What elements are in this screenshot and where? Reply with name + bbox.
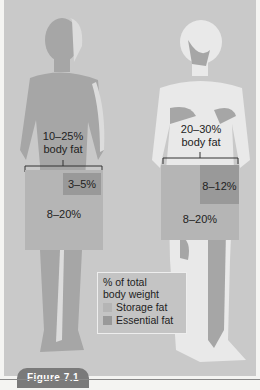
male-total-caption: body fat [30, 143, 96, 156]
essential-swatch-icon [103, 316, 112, 325]
divider [0, 379, 260, 380]
female-total-label: 20–30% body fat [168, 123, 234, 149]
figure-label: Figure 7.1 [17, 368, 89, 388]
legend-title-line2: body weight [103, 288, 181, 300]
legend-item-storage: Storage fat [103, 301, 181, 313]
male-essential-label: 3–5% [63, 178, 101, 191]
legend-label: Essential fat [116, 314, 173, 326]
storage-swatch-icon [103, 303, 112, 312]
male-total-label: 10–25% body fat [30, 130, 96, 156]
male-storage-label: 8–20% [25, 208, 103, 221]
legend-label: Storage fat [116, 301, 167, 313]
female-total-caption: body fat [168, 136, 234, 149]
female-total-percent: 20–30% [168, 123, 234, 136]
male-total-percent: 10–25% [30, 130, 96, 143]
female-essential-label: 8–12% [200, 180, 239, 193]
legend-title-line1: % of total [103, 276, 181, 288]
legend-item-essential: Essential fat [103, 314, 181, 326]
legend: % of total body weight Storage fat Essen… [97, 272, 187, 334]
female-storage-label: 8–20% [161, 213, 239, 226]
